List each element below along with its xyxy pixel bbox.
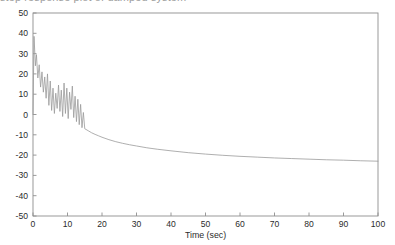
chart-background <box>0 0 395 245</box>
y-tick-label: -50 <box>16 211 29 221</box>
x-tick-label: 10 <box>63 219 73 229</box>
y-tick-label: 30 <box>18 49 28 59</box>
y-tick-label: 50 <box>18 8 28 18</box>
x-tick-label: 20 <box>97 219 107 229</box>
x-tick-label: 80 <box>304 219 314 229</box>
y-tick-label: 40 <box>18 28 28 38</box>
x-tick-label: 40 <box>166 219 176 229</box>
y-tick-label: 0 <box>23 110 28 120</box>
x-tick-label: 0 <box>31 219 36 229</box>
x-tick-label: 70 <box>270 219 280 229</box>
x-tick-label: 50 <box>201 219 211 229</box>
y-tick-label: -10 <box>16 130 29 140</box>
y-tick-label: -40 <box>16 191 29 201</box>
cropped-caption-above: step response plot of damped system <box>0 0 395 3</box>
y-tick-label: -30 <box>16 170 29 180</box>
x-axis-title: Time (sec) <box>185 230 226 240</box>
y-tick-label: 10 <box>18 89 28 99</box>
chart-svg: 0102030405060708090100 -50-40-30-20-1001… <box>0 0 395 245</box>
x-tick-label: 90 <box>339 219 349 229</box>
y-tick-label: -20 <box>16 150 29 160</box>
figure-container: step response plot of damped system 0102… <box>0 0 395 245</box>
y-tick-label: 20 <box>18 69 28 79</box>
x-tick-label: 60 <box>235 219 245 229</box>
x-tick-label: 30 <box>132 219 142 229</box>
x-tick-label: 100 <box>371 219 386 229</box>
